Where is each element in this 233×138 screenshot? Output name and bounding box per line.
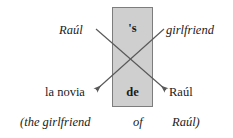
center-box-bottom-marker: de [112,86,153,99]
gloss-line: (the girlfriend of Raúl) [0,116,233,136]
gloss-word: of [133,116,143,129]
center-box-top-marker: 's [112,22,153,35]
gloss-word: Raúl) [172,116,200,129]
transposition-figure: 's de Raúl girlfriend la novia Raúl (the… [0,0,233,138]
gloss-word: (the girlfriend [20,116,90,129]
target-label-right: Raúl [169,86,193,99]
target-label-left: la novia [45,86,85,99]
source-label-right: girlfriend [166,24,214,37]
source-label-left: Raúl [59,24,83,37]
